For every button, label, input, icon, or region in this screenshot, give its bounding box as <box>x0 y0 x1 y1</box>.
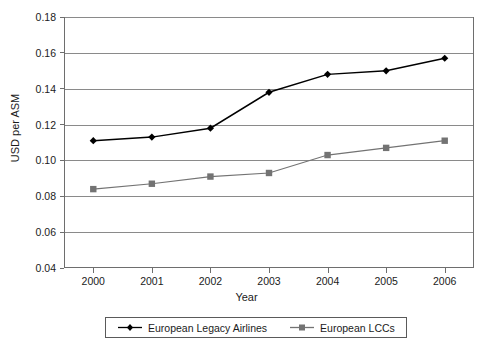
data-point <box>148 134 155 141</box>
x-tick-label: 2002 <box>187 275 233 287</box>
data-point <box>324 71 331 78</box>
x-tick-mark <box>210 268 211 273</box>
data-point <box>383 145 389 151</box>
x-tick-label: 2004 <box>305 275 351 287</box>
x-tick-label: 2005 <box>363 275 409 287</box>
chart-figure: 0.040.060.080.100.120.140.160.18 2000200… <box>0 0 493 346</box>
x-tick-mark <box>152 268 153 273</box>
data-point <box>324 152 330 158</box>
y-tick-label: 0.16 <box>14 47 56 59</box>
data-point <box>207 173 213 179</box>
x-tick-label: 2000 <box>70 275 116 287</box>
diamond-marker <box>117 322 143 333</box>
x-tick-mark <box>93 268 94 273</box>
data-point <box>441 55 448 62</box>
y-tick-label: 0.18 <box>14 11 56 23</box>
y-tick-label: 0.06 <box>14 226 56 238</box>
x-tick-mark <box>269 268 270 273</box>
data-point <box>266 170 272 176</box>
data-point <box>442 138 448 144</box>
legend-entry: European LCCs <box>289 322 395 334</box>
x-tick-mark <box>445 268 446 273</box>
legend-label: European LCCs <box>320 322 395 334</box>
series-line <box>93 141 444 189</box>
legend-label: European Legacy Airlines <box>148 322 267 334</box>
chart-legend: European Legacy AirlinesEuropean LCCs <box>105 317 407 338</box>
series-line <box>93 58 444 140</box>
y-tick-label: 0.04 <box>14 262 56 274</box>
data-point <box>383 67 390 74</box>
x-tick-label: 2003 <box>246 275 292 287</box>
series-legacy <box>90 55 449 145</box>
data-point <box>149 181 155 187</box>
data-point <box>207 125 214 132</box>
data-point <box>265 89 272 96</box>
y-axis-title: USD per ASM <box>9 68 21 188</box>
x-axis-title: Year <box>0 291 493 303</box>
data-point <box>90 186 96 192</box>
series-lcc <box>90 138 448 193</box>
data-series-canvas <box>64 17 474 268</box>
y-tick-label: 0.08 <box>14 190 56 202</box>
square-marker <box>289 322 315 333</box>
x-tick-label: 2001 <box>129 275 175 287</box>
x-tick-label: 2006 <box>422 275 468 287</box>
data-point <box>90 137 97 144</box>
x-tick-mark <box>328 268 329 273</box>
legend-entry: European Legacy Airlines <box>117 322 267 334</box>
x-tick-mark <box>386 268 387 273</box>
